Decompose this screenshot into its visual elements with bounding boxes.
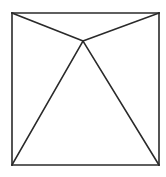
bottom-left-to-apex-line: [12, 41, 83, 165]
bottom-right-to-apex-line: [83, 41, 159, 165]
top-right-to-apex-line: [83, 13, 159, 41]
top-left-to-apex-line: [12, 13, 83, 41]
diagram-canvas: [0, 0, 166, 177]
square-with-interior-point-diagram: [0, 0, 166, 177]
